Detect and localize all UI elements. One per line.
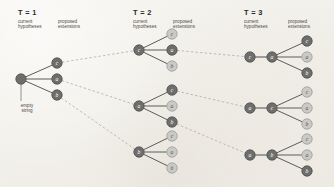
node-t3-g1-child-0-circle [302, 36, 312, 46]
node-t2-g1-parent-0-circle [134, 45, 144, 55]
node-t2-g3-parent-0-circle [134, 147, 144, 157]
expansion-edge [144, 52, 168, 63]
node-t3-g1-parent-1[interactable]: a [267, 52, 277, 62]
node-t1-g1-child-1[interactable]: a [52, 74, 62, 84]
column-title-t3: T = 3 [244, 8, 263, 17]
expansion-edge [144, 154, 168, 165]
node-t2-g2-child-0-circle [167, 85, 177, 95]
node-t1-g1-child-0-circle [52, 58, 62, 68]
empty-string-annotation: empty string [10, 103, 44, 113]
node-t3-g2-child-2[interactable]: b [302, 119, 312, 129]
node-t3-g2-child-0-circle [302, 87, 312, 97]
node-t3-g2-parent-0[interactable]: a [245, 103, 255, 113]
expansion-edge [277, 157, 303, 169]
column-sub-proposed-t3: proposed extensions [288, 19, 310, 29]
node-t3-g3-parent-0-circle [245, 150, 255, 160]
node-t2-g1-child-1[interactable]: a [167, 45, 177, 55]
node-t2-g3-child-1[interactable]: a [167, 147, 177, 157]
node-t2-g3-child-1-circle [167, 147, 177, 157]
column-sub-current-t2: current hypotheses [133, 19, 157, 29]
column-sub-current-t3-line2: hypotheses [244, 24, 268, 29]
node-t1-g1-child-2-circle [52, 90, 62, 100]
node-t2-g1-child-1-circle [167, 45, 177, 55]
node-t3-g3-child-1[interactable]: a [302, 150, 312, 160]
column-sub-proposed-t3-line2: extensions [288, 24, 310, 29]
node-t3-g1-parent-1-circle [267, 52, 277, 62]
node-t3-g1-child-1-circle [302, 52, 312, 62]
node-t3-g2-child-0[interactable]: c [302, 87, 312, 97]
node-t2-g2-child-0[interactable]: c [167, 85, 177, 95]
column-title-t1: T = 1 [18, 8, 37, 17]
node-t3-g3-parent-0[interactable]: a [245, 150, 255, 160]
node-t2-g2-child-1-circle [167, 101, 177, 111]
node-t3-g1-child-1[interactable]: a [302, 52, 312, 62]
column-sub-current-t1-line2: hypotheses [18, 24, 42, 29]
node-t3-g3-parent-1-circle [267, 150, 277, 160]
expansion-edge [144, 36, 168, 47]
node-t3-g2-parent-1[interactable]: c [267, 103, 277, 113]
node-t1-g1-child-0[interactable]: c [52, 58, 62, 68]
expansion-edge [277, 141, 303, 153]
node-t3-g3-parent-1[interactable]: b [267, 150, 277, 160]
carryover-connector [62, 51, 134, 62]
node-t2-g1-child-2[interactable]: b [167, 61, 177, 71]
column-sub-proposed-t2: proposed extensions [173, 19, 195, 29]
node-t1-g1-parent-0[interactable] [16, 74, 26, 84]
column-sub-current-t3: current hypotheses [244, 19, 268, 29]
node-t3-g2-child-1[interactable]: a [302, 103, 312, 113]
node-t3-g1-child-2[interactable]: b [302, 68, 312, 78]
node-t1-g1-child-1-circle [52, 74, 62, 84]
node-t2-g3-parent-0[interactable]: b [134, 147, 144, 157]
tree-graphics: cabccabacabbcabcacabaccababcab [0, 0, 334, 187]
node-t3-g2-parent-1-circle [267, 103, 277, 113]
expansion-edge [277, 59, 303, 71]
expansion-edge [144, 108, 168, 119]
node-t2-g3-child-2[interactable]: b [167, 163, 177, 173]
node-t3-g1-parent-0-circle [245, 52, 255, 62]
expansion-edge [277, 43, 303, 55]
node-t3-g2-child-2-circle [302, 119, 312, 129]
carryover-connector [177, 50, 245, 56]
node-t2-g1-child-2-circle [167, 61, 177, 71]
node-t2-g3-child-0[interactable]: c [167, 131, 177, 141]
node-t2-g2-parent-0-circle [134, 101, 144, 111]
node-t1-g1-child-2[interactable]: b [52, 90, 62, 100]
node-t2-g3-child-2-circle [167, 163, 177, 173]
column-sub-current-t1: current hypotheses [18, 19, 42, 29]
node-t3-g3-child-2-circle [302, 166, 312, 176]
carryover-connector [177, 124, 245, 153]
node-t2-g2-child-2-circle [167, 117, 177, 127]
carryover-connector [177, 91, 245, 107]
column-sub-current-t2-line2: hypotheses [133, 24, 157, 29]
node-t2-g2-child-1[interactable]: a [167, 101, 177, 111]
expansion-edge [277, 94, 303, 106]
node-t2-g2-child-2[interactable]: b [167, 117, 177, 127]
node-t3-g1-child-2-circle [302, 68, 312, 78]
expansion-edge [26, 65, 52, 77]
node-t2-g3-child-0-circle [167, 131, 177, 141]
expansion-edge [144, 138, 168, 149]
carryover-connector [61, 98, 134, 149]
column-title-t2: T = 2 [133, 8, 152, 17]
node-t2-g1-parent-0[interactable]: c [134, 45, 144, 55]
expansion-edge [277, 110, 303, 122]
column-sub-proposed-t1: proposed extensions [58, 19, 80, 29]
node-t3-g2-parent-0-circle [245, 103, 255, 113]
node-t3-g3-child-2[interactable]: b [302, 166, 312, 176]
node-t3-g3-child-0-circle [302, 134, 312, 144]
carryover-connector [62, 81, 134, 105]
node-t1-g1-parent-0-circle [16, 74, 26, 84]
node-t3-g2-child-1-circle [302, 103, 312, 113]
expansion-edge [26, 81, 52, 93]
node-t3-g3-child-1-circle [302, 150, 312, 160]
column-sub-proposed-t2-line2: extensions [173, 24, 195, 29]
figure-canvas: cabccabacabbcabcacabaccababcab T = 1 cur… [0, 0, 334, 187]
node-t2-g2-parent-0[interactable]: a [134, 101, 144, 111]
node-t3-g1-child-0[interactable]: c [302, 36, 312, 46]
node-t2-g1-child-0[interactable]: c [167, 29, 177, 39]
node-t3-g3-child-0[interactable]: c [302, 134, 312, 144]
expansion-edge [144, 92, 168, 103]
node-t2-g1-child-0-circle [167, 29, 177, 39]
empty-string-annotation-line2: string [10, 108, 44, 113]
node-t3-g1-parent-0[interactable]: c [245, 52, 255, 62]
